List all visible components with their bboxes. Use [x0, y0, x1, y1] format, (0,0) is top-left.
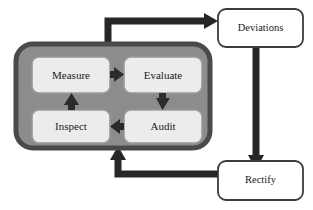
- connector-deviations-to-rectify: [248, 47, 264, 170]
- node-inspect[interactable]: Inspect: [32, 110, 110, 143]
- node-measure-label: Measure: [52, 69, 90, 81]
- diagram-canvas: Measure Evaluate Inspect Audit: [0, 0, 313, 210]
- flow-diagram: Measure Evaluate Inspect Audit: [0, 0, 313, 210]
- node-rectify-label: Rectify: [245, 174, 277, 185]
- node-rectify[interactable]: Rectify: [218, 161, 303, 200]
- node-audit[interactable]: Audit: [124, 110, 202, 143]
- node-evaluate[interactable]: Evaluate: [124, 57, 202, 93]
- node-evaluate-label: Evaluate: [144, 69, 183, 81]
- node-measure[interactable]: Measure: [32, 57, 110, 93]
- node-deviations[interactable]: Deviations: [218, 9, 303, 47]
- connector-loop-to-deviations: [108, 13, 218, 44]
- node-audit-label: Audit: [150, 120, 175, 132]
- node-inspect-label: Inspect: [55, 120, 87, 132]
- node-deviations-label: Deviations: [238, 22, 284, 33]
